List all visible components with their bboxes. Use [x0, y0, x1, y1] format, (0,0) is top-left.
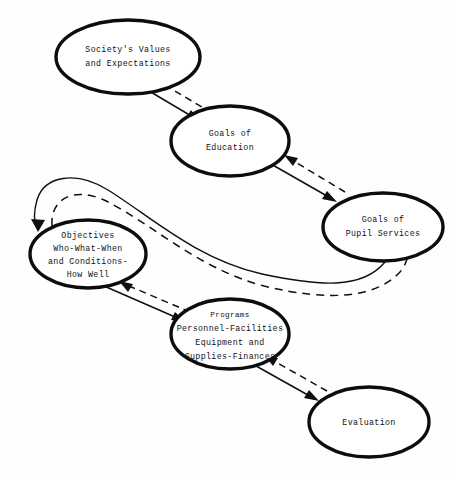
goals-of-pupil-services-label-line-1: Goals of	[362, 215, 405, 224]
society-values-label-line-2: and Expectations	[85, 59, 170, 68]
arrowhead-into-goals-of-education-feedback	[284, 155, 298, 166]
objectives-label-line-1: Objectives	[61, 231, 114, 240]
goals-of-education-label-line-2: Education	[206, 143, 254, 152]
society-values-label-line-1: Society's Values	[85, 45, 170, 54]
edge-programs-to-evaluation	[249, 362, 319, 401]
edge-pupil-services-to-education	[284, 155, 345, 192]
programs-label-line-2: Personnel-Facilities	[177, 324, 284, 333]
edge-objectives-to-programs	[104, 286, 186, 322]
programs-label-line-1: Programs	[210, 311, 249, 319]
programs-node[interactable]: Programs Personnel-Facilities Equipment …	[171, 299, 289, 369]
evaluation-label: Evaluation	[342, 418, 395, 427]
evaluation-node[interactable]: Evaluation	[309, 387, 429, 457]
objectives-label-line-2: Who-What-When	[53, 244, 122, 253]
programs-label-line-4: Supplies-Finances	[185, 352, 276, 361]
goals-of-pupil-services-label-line-2: Pupil Services	[346, 229, 421, 238]
diagram-canvas: Society's Values and Expectations Goals …	[0, 0, 452, 477]
arrowhead-into-goals-of-pupil-services	[322, 191, 337, 202]
arrowhead-into-objectives	[31, 219, 45, 232]
goals-of-education-ellipse	[171, 106, 289, 176]
edge-education-to-pupil-services	[271, 164, 337, 202]
flow-diagram: Society's Values and Expectations Goals …	[0, 0, 452, 477]
objectives-node[interactable]: Objectives Who-What-When and Conditions-…	[30, 220, 146, 288]
goals-of-pupil-services-node[interactable]: Goals of Pupil Services	[323, 193, 443, 261]
programs-label-line-3: Equipment and	[195, 338, 264, 347]
goals-of-pupil-services-ellipse	[323, 193, 443, 261]
objectives-label-line-3: and Conditions-	[48, 257, 128, 266]
goals-of-education-label-line-1: Goals of	[209, 129, 252, 138]
society-values-node[interactable]: Society's Values and Expectations	[56, 20, 200, 94]
arrowhead-into-evaluation	[304, 390, 319, 401]
society-values-ellipse	[56, 20, 200, 94]
objectives-label-line-4: How Well	[67, 270, 110, 279]
goals-of-education-node[interactable]: Goals of Education	[171, 106, 289, 176]
